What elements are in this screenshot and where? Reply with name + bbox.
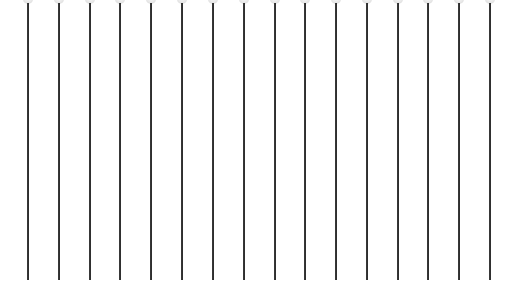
pin-shaft bbox=[427, 3, 429, 280]
pin-shaft bbox=[243, 3, 245, 280]
pin bbox=[176, 0, 188, 282]
pin-shaft bbox=[304, 3, 306, 280]
pin-shaft bbox=[89, 3, 91, 280]
pin-shaft bbox=[274, 3, 276, 280]
pin-shaft bbox=[335, 3, 337, 280]
pin bbox=[361, 0, 373, 282]
pin bbox=[238, 0, 250, 282]
pin-shaft bbox=[489, 3, 491, 280]
pin bbox=[53, 0, 65, 282]
pin-shaft bbox=[181, 3, 183, 280]
pin bbox=[484, 0, 496, 282]
pin-shaft bbox=[119, 3, 121, 280]
pin bbox=[392, 0, 404, 282]
pin-shaft bbox=[397, 3, 399, 280]
pin-shaft bbox=[212, 3, 214, 280]
pin bbox=[207, 0, 219, 282]
pin-shaft bbox=[366, 3, 368, 280]
pin bbox=[145, 0, 157, 282]
pin bbox=[114, 0, 126, 282]
pin bbox=[22, 0, 34, 282]
pin-shaft bbox=[458, 3, 460, 280]
pin-shaft bbox=[58, 3, 60, 280]
pin bbox=[84, 0, 96, 282]
pin bbox=[299, 0, 311, 282]
pin-shaft bbox=[27, 3, 29, 280]
pin bbox=[269, 0, 281, 282]
pin-shaft bbox=[150, 3, 152, 280]
pin bbox=[330, 0, 342, 282]
pin bbox=[422, 0, 434, 282]
pin bbox=[453, 0, 465, 282]
